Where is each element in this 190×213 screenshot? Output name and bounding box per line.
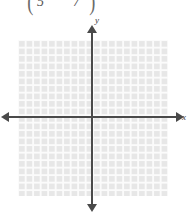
grid-background	[18, 40, 168, 196]
matrix-entry-2: 7	[73, 0, 80, 13]
matrix-fragment: ( 5 7 )	[26, 0, 96, 13]
matrix-entry-1: 5	[37, 0, 44, 13]
x-axis-arrow-left-icon	[1, 112, 9, 122]
y-axis-arrow-up-icon	[87, 25, 97, 33]
x-axis-label: x	[182, 112, 186, 122]
y-axis-arrow-down-icon	[87, 204, 97, 212]
y-axis-line	[91, 32, 93, 207]
y-axis-label: y	[95, 15, 99, 25]
matrix-left-parenthesis: (	[27, 0, 33, 13]
coordinate-plane-figure: ( 5 7 ) x y	[0, 0, 190, 213]
matrix-right-parenthesis: )	[89, 0, 95, 13]
